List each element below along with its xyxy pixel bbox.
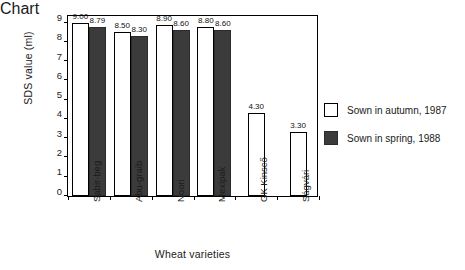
legend-label: Sown in spring, 1988 bbox=[347, 133, 440, 144]
x-tick-label: Noori bbox=[176, 179, 186, 202]
x-tick-label: Sabir-beg bbox=[92, 161, 102, 202]
bar-group: 8.808.60 bbox=[194, 16, 236, 196]
x-tick-mark bbox=[110, 196, 111, 200]
bar-value-label: 8.90 bbox=[156, 15, 172, 23]
y-tick-label: 4 bbox=[44, 109, 62, 119]
y-tick-label: 3 bbox=[44, 129, 62, 139]
chart-figure: SDS value (ml) 0123456789 9.008.798.508.… bbox=[0, 0, 465, 270]
x-tick-mark bbox=[68, 196, 69, 200]
legend-item[interactable]: Sown in spring, 1988 bbox=[324, 128, 447, 148]
bar-autumn-1987[interactable]: 8.80 bbox=[197, 27, 214, 196]
bar-autumn-1987[interactable]: 8.90 bbox=[156, 25, 173, 196]
bar-autumn-1987[interactable]: 8.50 bbox=[114, 32, 131, 196]
bar-value-label: 8.60 bbox=[173, 20, 189, 28]
y-tick-label: 5 bbox=[44, 90, 62, 100]
y-tick-label: 1 bbox=[44, 167, 62, 177]
bar-group: 3.30 bbox=[277, 16, 319, 196]
x-tick-mark bbox=[277, 196, 278, 200]
plot-area: 0123456789 9.008.798.508.308.908.608.808… bbox=[67, 15, 318, 197]
legend-label: Sown in autumn, 1987 bbox=[347, 105, 447, 116]
bar-group: 9.008.79 bbox=[68, 16, 110, 196]
y-tick-label: 2 bbox=[44, 148, 62, 158]
x-tick-mark bbox=[235, 196, 236, 200]
x-tick-label: GK Kinscő bbox=[259, 157, 269, 202]
y-tick-label: 6 bbox=[44, 71, 62, 81]
y-axis-title: SDS value (ml) bbox=[22, 0, 34, 148]
x-tick-label: Ságvári bbox=[301, 170, 311, 202]
bar-value-label: 8.30 bbox=[131, 26, 147, 34]
x-tick-mark bbox=[194, 196, 195, 200]
bar-value-label: 8.79 bbox=[90, 17, 106, 25]
chart-legend: Sown in autumn, 1987Sown in spring, 1988 bbox=[324, 100, 447, 156]
bar-group: 8.508.30 bbox=[110, 16, 152, 196]
bar-series-container: 9.008.798.508.308.908.608.808.604.303.30 bbox=[68, 16, 317, 196]
bar-value-label: 9.00 bbox=[73, 13, 89, 21]
x-tick-label: Mexipak bbox=[217, 167, 227, 202]
bar-value-label: 8.60 bbox=[215, 20, 231, 28]
bar-value-label: 8.80 bbox=[198, 17, 214, 25]
bar-value-label: 4.30 bbox=[248, 103, 264, 111]
y-tick-label: 9 bbox=[44, 13, 62, 23]
bar-spring-1988[interactable]: 8.60 bbox=[173, 30, 190, 196]
bar-group: 8.908.60 bbox=[152, 16, 194, 196]
x-tick-mark bbox=[152, 196, 153, 200]
x-axis-title: Wheat varieties bbox=[67, 248, 318, 260]
legend-item[interactable]: Sown in autumn, 1987 bbox=[324, 100, 447, 120]
x-tick-label: Abu-graib bbox=[134, 161, 144, 202]
bar-value-label: 8.50 bbox=[114, 22, 130, 30]
x-tick-mark bbox=[319, 196, 320, 200]
y-tick-label: 8 bbox=[44, 32, 62, 42]
bar-value-label: 3.30 bbox=[290, 122, 306, 130]
y-tick-label: 7 bbox=[44, 52, 62, 62]
bar-group: 4.30 bbox=[235, 16, 277, 196]
y-tick-label: 0 bbox=[44, 187, 62, 197]
legend-swatch-autumn bbox=[324, 103, 338, 117]
legend-swatch-spring bbox=[324, 131, 338, 145]
bar-autumn-1987[interactable]: 9.00 bbox=[72, 23, 89, 196]
